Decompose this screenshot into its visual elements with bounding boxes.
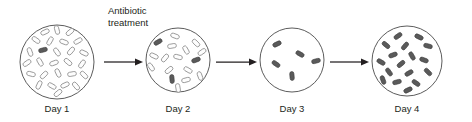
antibiotic-treatment-label-line2: treatment [108,17,148,28]
resistant-bacterium-day-3-4 [290,71,295,80]
resistant-bacterium-day-2-13 [170,74,175,83]
arrow-day3-day4 [330,58,369,65]
stage-labels-layer: Day 1Day 2Day 3Day 4 [45,103,420,114]
antibiotic-treatment-label-line1: Antibiotic [108,5,147,16]
stage-label-day-3: Day 3 [280,103,305,114]
arrow-day1-day2 [104,58,143,65]
stage-label-day-2: Day 2 [166,103,191,114]
stage-label-day-4: Day 4 [395,103,420,114]
arrow-day2-day3 [216,58,257,65]
arrows-layer [104,58,369,65]
stage-label-day-1: Day 1 [45,103,70,114]
diagram-canvas: Day 1Day 2Day 3Day 4 Antibiotic treatmen… [0,0,472,122]
antibiotic-resistance-diagram: Day 1Day 2Day 3Day 4 Antibiotic treatmen… [0,0,472,122]
